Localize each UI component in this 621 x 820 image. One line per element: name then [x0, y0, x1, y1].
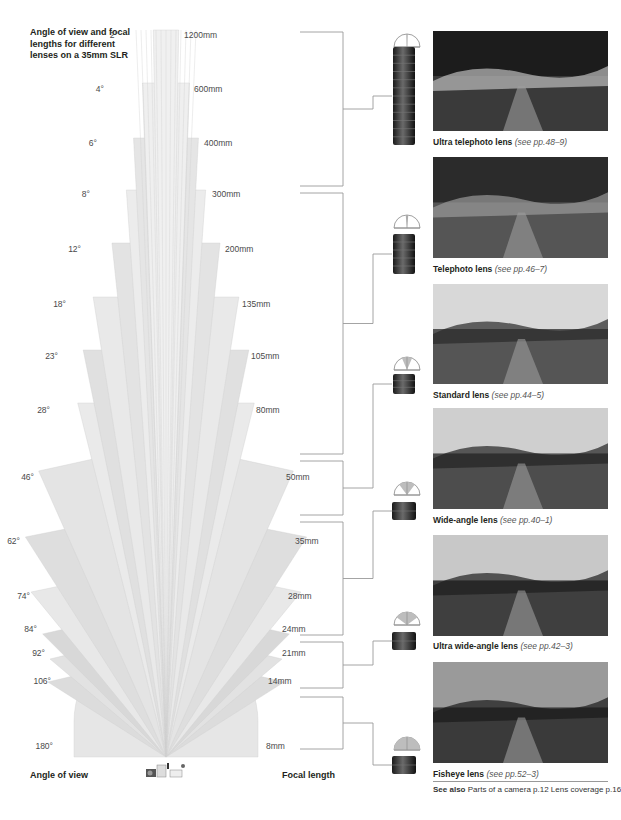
lens-icon — [392, 502, 416, 524]
focal-length-label: 1200mm — [184, 30, 217, 40]
bracket-0 — [300, 32, 392, 186]
angle-label: 12° — [68, 244, 81, 254]
focal-length-label: 200mm — [225, 244, 253, 254]
lens-name: Ultra telephoto lens — [433, 137, 515, 147]
focal-length-label: 28mm — [288, 591, 312, 601]
focal-length-label: 80mm — [256, 405, 280, 415]
lens-caption: Standard lens (see pp.44–5) — [433, 390, 544, 400]
page-reference[interactable]: (see pp.44–5) — [492, 390, 544, 400]
angle-label: 84° — [24, 624, 37, 634]
focal-length-label: 8mm — [266, 741, 285, 751]
lens-name: Ultra wide-angle lens — [433, 641, 520, 651]
bracket-2 — [300, 384, 392, 515]
lens-icon — [392, 632, 416, 654]
bracket-1 — [300, 193, 392, 454]
page-reference[interactable]: (see pp.52–3) — [486, 769, 538, 779]
focal-length-label: 105mm — [251, 351, 279, 361]
page-reference[interactable]: (see pp.48–9) — [515, 137, 567, 147]
lens-name: Fisheye lens — [433, 769, 486, 779]
angle-label: 18° — [53, 299, 66, 309]
example-photo — [433, 408, 608, 509]
see-also-links[interactable]: Parts of a camera p.12 Lens coverage p.1… — [468, 785, 621, 794]
fov-semicircle-icon — [393, 736, 421, 756]
lens-caption: Ultra telephoto lens (see pp.48–9) — [433, 137, 567, 147]
focal-length-label: 400mm — [204, 138, 232, 148]
lens-name: Telephoto lens — [433, 264, 495, 274]
lens-name: Standard lens — [433, 390, 492, 400]
focal-length-label: 300mm — [212, 189, 240, 199]
angle-label: 4° — [96, 84, 104, 94]
lens-icon — [393, 374, 415, 398]
lens-icon — [392, 756, 416, 778]
focal-length-label: 21mm — [282, 648, 306, 658]
fov-semicircle-icon — [393, 611, 421, 631]
lens-caption: Ultra wide-angle lens (see pp.42–3) — [433, 641, 573, 651]
angle-label: 6° — [89, 138, 97, 148]
lens-icon — [393, 47, 415, 149]
bracket-4 — [300, 641, 392, 688]
page-reference[interactable]: (see pp.42–3) — [520, 641, 572, 651]
focal-length-label: 135mm — [242, 299, 270, 309]
page-reference[interactable]: (see pp.40–1) — [500, 515, 552, 525]
lens-caption: Telephoto lens (see pp.46–7) — [433, 264, 547, 274]
angle-label: 74° — [17, 591, 30, 601]
fov-semicircle-icon — [393, 481, 421, 501]
angle-label: 23° — [45, 351, 58, 361]
bracket-3 — [300, 511, 392, 635]
angle-label: 2° — [110, 30, 118, 40]
example-photo — [433, 284, 608, 384]
angle-label: 180° — [35, 741, 53, 751]
page-reference[interactable]: (see pp.46–7) — [495, 264, 547, 274]
lens-caption: Wide-angle lens (see pp.40–1) — [433, 515, 552, 525]
lens-icon — [393, 234, 415, 278]
fov-semicircle-icon — [393, 214, 421, 234]
example-photo — [433, 31, 608, 131]
angle-label: 28° — [37, 405, 50, 415]
focal-length-label: 600mm — [194, 84, 222, 94]
example-photo — [433, 157, 608, 258]
focal-length-axis-label: Focal length — [282, 770, 335, 780]
bracket-5 — [300, 697, 392, 765]
angle-label: 106° — [33, 676, 51, 686]
focal-length-label: 50mm — [286, 472, 310, 482]
angle-label: 62° — [7, 536, 20, 546]
focal-length-label: 35mm — [295, 536, 319, 546]
focal-length-label: 24mm — [282, 624, 306, 634]
see-also-label: See also — [433, 785, 465, 794]
fov-semicircle-icon — [393, 356, 421, 376]
angle-label: 8° — [82, 189, 90, 199]
lens-name: Wide-angle lens — [433, 515, 500, 525]
angle-of-view-axis-label: Angle of view — [30, 770, 88, 780]
focal-length-label: 14mm — [268, 676, 292, 686]
see-also-note: See also Parts of a camera p.12 Lens cov… — [433, 781, 608, 794]
camera-icons — [146, 763, 188, 783]
angle-label: 92° — [32, 648, 45, 658]
lens-caption: Fisheye lens (see pp.52–3) — [433, 769, 539, 779]
example-photo — [433, 535, 608, 636]
angle-label: 46° — [21, 472, 34, 482]
example-photo — [433, 662, 608, 763]
